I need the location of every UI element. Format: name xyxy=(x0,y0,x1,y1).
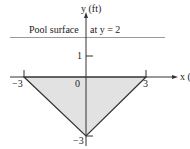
x-axis-arrow-icon xyxy=(172,75,178,79)
triangle-region xyxy=(24,77,146,136)
surface-label-right: at y = 2 xyxy=(90,25,120,35)
tick-label-x-pos3: 3 xyxy=(143,79,148,89)
tick-label-y-1: 1 xyxy=(77,51,82,61)
surface-label-left: Pool surface xyxy=(29,25,79,35)
diagram-canvas xyxy=(0,0,190,149)
tick-label-y-neg3: −3 xyxy=(73,136,84,146)
x-axis-label: x (ft) xyxy=(180,72,190,82)
tick-label-x-neg3: −3 xyxy=(12,79,23,89)
y-axis-label: y (ft) xyxy=(81,4,101,14)
tick-label-origin: 0 xyxy=(75,79,80,89)
